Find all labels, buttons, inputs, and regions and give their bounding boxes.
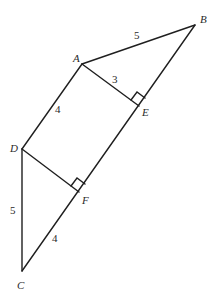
segment-bc bbox=[22, 25, 195, 271]
length-label-fc: 4 bbox=[52, 233, 58, 244]
length-label-ad: 4 bbox=[55, 104, 61, 115]
point-label-d: D bbox=[10, 143, 18, 154]
figure-canvas bbox=[0, 0, 219, 299]
length-label-ae: 3 bbox=[112, 74, 118, 85]
segment-df bbox=[22, 149, 79, 192]
point-label-f: F bbox=[82, 195, 89, 206]
point-label-c: C bbox=[17, 280, 24, 291]
point-label-b: B bbox=[200, 14, 207, 25]
geometry-diagram: B A E D F C 5 3 4 5 4 bbox=[0, 0, 219, 299]
length-label-ab: 5 bbox=[134, 30, 140, 41]
point-label-e: E bbox=[142, 107, 149, 118]
point-label-a: A bbox=[73, 53, 80, 64]
segment-ad bbox=[22, 64, 82, 149]
length-label-dc: 5 bbox=[10, 205, 16, 216]
